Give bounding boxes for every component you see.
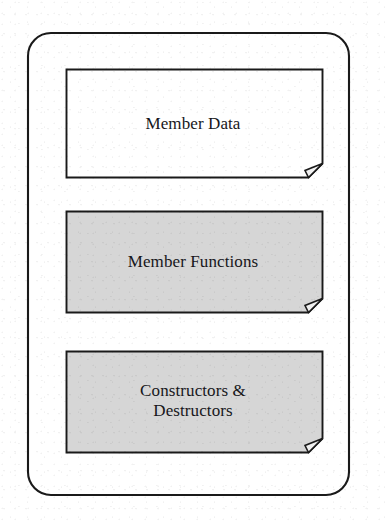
block-member-functions-label: Member Functions [0,252,386,272]
block-constructors-destructors-label: Constructors & Destructors [0,381,386,421]
block-member-data-label: Member Data [0,114,386,134]
